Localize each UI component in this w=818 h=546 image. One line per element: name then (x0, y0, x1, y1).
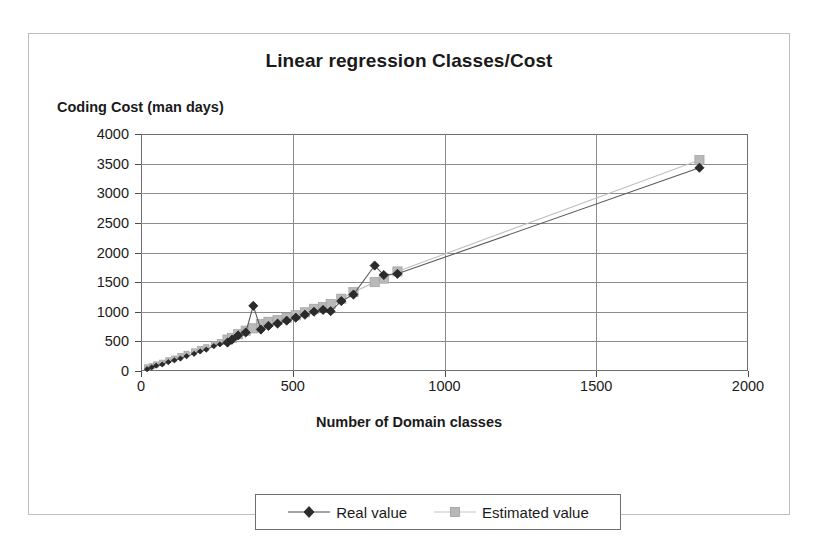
diamond-marker-icon (287, 504, 331, 520)
y-tick-label: 2000 (59, 245, 129, 261)
y-tick-label: 3000 (59, 185, 129, 201)
legend-item-estimated-value[interactable]: Estimated value (433, 504, 589, 521)
y-tick-label: 1000 (59, 304, 129, 320)
x-tick-mark (748, 371, 749, 377)
square-marker-icon (433, 504, 477, 520)
x-axis-title: Number of Domain classes (29, 414, 789, 430)
y-tick-label: 3500 (59, 156, 129, 172)
data-point-estimated (370, 278, 379, 287)
x-tick-mark (596, 371, 597, 377)
y-axis-title: Coding Cost (man days) (57, 99, 224, 115)
y-tick-label: 1500 (59, 274, 129, 290)
x-tick-mark (141, 371, 142, 377)
plot-wrapper: 0500100015002000250030003500400005001000… (141, 134, 748, 371)
x-tick-label: 1000 (405, 378, 485, 394)
y-tick-label: 0 (59, 363, 129, 379)
legend-label-real-value: Real value (336, 504, 407, 521)
data-point-real (249, 301, 258, 310)
y-tick-label: 4000 (59, 126, 129, 142)
series-real-value (144, 163, 704, 372)
x-tick-label: 1500 (556, 378, 636, 394)
x-tick-mark (293, 371, 294, 377)
legend-item-real-value[interactable]: Real value (287, 504, 407, 521)
x-tick-label: 0 (101, 378, 181, 394)
x-tick-label: 500 (253, 378, 333, 394)
y-tick-label: 500 (59, 333, 129, 349)
chart-title: Linear regression Classes/Cost (29, 50, 789, 72)
legend-label-estimated-value: Estimated value (482, 504, 589, 521)
x-tick-mark (445, 371, 446, 377)
chart-frame: Linear regression Classes/Cost Coding Co… (28, 33, 790, 515)
x-tick-label: 2000 (708, 378, 788, 394)
plot-series-svg (141, 134, 748, 371)
chart-legend: Real value Estimated value (255, 494, 621, 530)
series-estimated-value (144, 155, 704, 370)
y-tick-label: 2500 (59, 215, 129, 231)
